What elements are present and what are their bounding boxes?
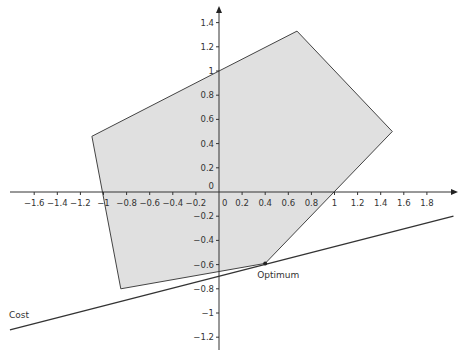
x-tick-label-zero: 0 xyxy=(222,198,227,208)
y-tick-label: 0.4 xyxy=(200,139,214,149)
x-tick-label: 1.8 xyxy=(420,198,434,208)
x-axis-arrow-icon xyxy=(451,189,458,195)
x-tick-label: 0.4 xyxy=(258,198,272,208)
y-tick-label: −0.4 xyxy=(193,235,214,245)
y-tick-label: 0.2 xyxy=(200,163,214,173)
y-tick-label: 0 xyxy=(209,181,214,191)
y-tick-label: −1.2 xyxy=(193,332,214,342)
x-tick-label: −0.4 xyxy=(162,198,183,208)
x-tick-label: −1.2 xyxy=(70,198,91,208)
x-tick-label: −1.6 xyxy=(24,198,45,208)
cost-label: Cost xyxy=(9,310,29,320)
x-tick-label: −0.6 xyxy=(139,198,160,208)
y-tick-label: 1.4 xyxy=(200,18,214,28)
y-tick-label: −0.2 xyxy=(193,211,214,221)
plot-svg: −1.6−1.4−1.2−1−0.8−0.6−0.4−0.20.20.40.60… xyxy=(0,0,461,355)
x-tick-label: −1.4 xyxy=(47,198,68,208)
y-tick-label: 0.8 xyxy=(200,90,214,100)
y-axis-arrow-icon xyxy=(216,6,222,13)
x-tick-label: −0.8 xyxy=(116,198,137,208)
y-tick-label: −1 xyxy=(201,308,214,318)
x-tick-label: −1 xyxy=(97,198,110,208)
y-tick-label: 1 xyxy=(209,66,214,76)
optimum-point-icon xyxy=(263,261,267,265)
feasible-region-layer xyxy=(92,31,392,289)
y-tick-label: −0.6 xyxy=(193,260,214,270)
x-tick-label: 1.6 xyxy=(397,198,411,208)
x-tick-label: 1 xyxy=(332,198,337,208)
lp-diagram: −1.6−1.4−1.2−1−0.8−0.6−0.4−0.20.20.40.60… xyxy=(0,0,461,355)
y-tick-label: 1.2 xyxy=(200,42,214,52)
x-tick-label: 0.6 xyxy=(282,198,296,208)
x-tick-label: 1.2 xyxy=(351,198,365,208)
feasible-region xyxy=(92,31,392,289)
optimum-label: Optimum xyxy=(257,270,299,280)
y-tick-label: 0.6 xyxy=(200,114,214,124)
x-tick-label: 0.8 xyxy=(305,198,319,208)
y-tick-label: −0.8 xyxy=(193,284,214,294)
x-tick-label: 0.2 xyxy=(235,198,249,208)
x-tick-label: 1.4 xyxy=(374,198,388,208)
x-tick-label: −0.2 xyxy=(186,198,207,208)
